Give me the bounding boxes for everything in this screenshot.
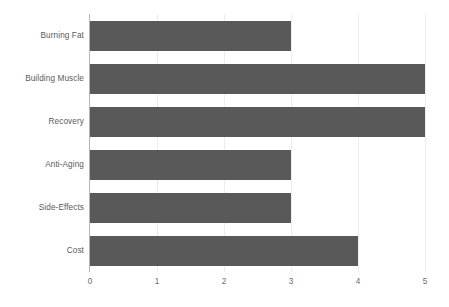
- y-axis-tick-label: Cost: [0, 246, 84, 255]
- bar: [90, 107, 425, 137]
- gridline: [291, 14, 292, 272]
- y-axis-tick-label: Anti-Aging: [0, 160, 84, 169]
- bar-chart: Burning FatBuilding MuscleRecoveryAnti-A…: [0, 0, 449, 307]
- x-axis-label-group: 012345: [90, 277, 425, 291]
- bar: [90, 21, 291, 51]
- y-axis-tick-label: Building Muscle: [0, 74, 84, 83]
- y-axis-label-group: Burning FatBuilding MuscleRecoveryAnti-A…: [0, 14, 84, 272]
- plot-area: [90, 14, 425, 272]
- x-axis-tick-label: 2: [222, 277, 227, 287]
- y-axis-tick-label: Side-Effects: [0, 203, 84, 212]
- gridline: [358, 14, 359, 272]
- y-axis-tick-label: Burning Fat: [0, 31, 84, 40]
- gridline: [157, 14, 158, 272]
- gridline: [425, 14, 426, 272]
- x-axis-tick-label: 1: [155, 277, 160, 287]
- bar: [90, 193, 291, 223]
- bar: [90, 236, 358, 266]
- x-axis-tick-label: 0: [88, 277, 93, 287]
- x-axis-tick-label: 5: [423, 277, 428, 287]
- y-axis-tick-label: Recovery: [0, 117, 84, 126]
- bar: [90, 64, 425, 94]
- gridline: [224, 14, 225, 272]
- x-axis-tick-label: 3: [289, 277, 294, 287]
- x-axis-tick-label: 4: [356, 277, 361, 287]
- bar: [90, 150, 291, 180]
